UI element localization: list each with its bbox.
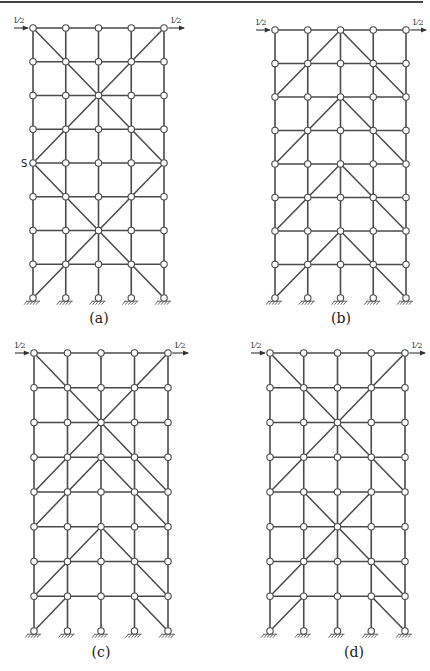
- panel-b: 1⁄21⁄2(b): [255, 18, 427, 326]
- pin-joint: [95, 227, 101, 233]
- pin-joint: [95, 25, 101, 31]
- pin-joint: [64, 419, 70, 425]
- pin-joint: [402, 524, 408, 530]
- load-arrow-right-icon: [172, 350, 189, 355]
- diagonal-brace: [34, 457, 68, 492]
- pin-support-icon: [92, 634, 108, 638]
- panel-caption: (b): [331, 310, 351, 326]
- pin-joint: [403, 194, 409, 200]
- pin-joint: [272, 161, 278, 167]
- pin-joint: [98, 524, 104, 530]
- pin-joint: [402, 593, 408, 599]
- pin-joint: [301, 524, 307, 530]
- pin-joint: [337, 161, 343, 167]
- pin-joint: [272, 228, 278, 234]
- pin-joint: [30, 92, 36, 98]
- pin-joint: [63, 227, 69, 233]
- pin-joint: [368, 385, 374, 391]
- pin-joint: [301, 593, 307, 599]
- pin-joint: [128, 25, 134, 31]
- pin-joint: [403, 228, 409, 234]
- pin-joint: [272, 295, 278, 301]
- pin-joint: [161, 25, 167, 31]
- pin-joint: [165, 350, 171, 356]
- pin-joint: [161, 194, 167, 200]
- pin-joint: [30, 59, 36, 65]
- pin-joint: [161, 160, 167, 166]
- pin-joint: [337, 295, 343, 301]
- load-label-right: 1⁄2: [411, 341, 423, 350]
- pin-joint: [98, 419, 104, 425]
- pin-joint: [334, 524, 340, 530]
- panel-caption: (d): [344, 644, 364, 660]
- pin-joint: [402, 419, 408, 425]
- load-label-left: 1⁄2: [255, 18, 267, 27]
- pin-joint: [272, 27, 278, 33]
- pin-joint: [301, 350, 307, 356]
- pin-support-icon: [362, 634, 378, 638]
- pin-joint: [368, 454, 374, 460]
- pin-joint: [161, 126, 167, 132]
- pin-joint: [131, 628, 137, 634]
- pin-joint: [368, 558, 374, 564]
- pin-joint: [161, 59, 167, 65]
- panel-caption: (c): [92, 644, 111, 660]
- load-label-right: 1⁄2: [174, 341, 186, 350]
- pin-support-icon: [261, 634, 277, 638]
- pin-joint: [370, 27, 376, 33]
- pin-joint: [95, 59, 101, 65]
- pin-joint: [30, 295, 36, 301]
- pin-joint: [337, 194, 343, 200]
- pin-joint: [370, 261, 376, 267]
- pin-joint: [63, 59, 69, 65]
- pin-joint: [165, 454, 171, 460]
- pin-joint: [301, 454, 307, 460]
- pin-joint: [128, 92, 134, 98]
- pin-joint: [131, 558, 137, 564]
- load-arrow-left-icon: [15, 350, 30, 355]
- load-arrow-left-icon: [256, 27, 271, 32]
- diagonal-brace: [270, 596, 304, 631]
- pin-joint: [334, 454, 340, 460]
- pin-joint: [31, 524, 37, 530]
- pin-joint: [305, 27, 311, 33]
- pin-joint: [368, 419, 374, 425]
- pin-joint: [402, 628, 408, 634]
- pin-joint: [131, 593, 137, 599]
- pin-support-icon: [266, 301, 282, 305]
- pin-joint: [161, 261, 167, 267]
- truss-figure: 1⁄21⁄2S(a)1⁄21⁄2(b)1⁄21⁄2(c)1⁄21⁄2(d): [0, 0, 430, 671]
- pin-joint: [165, 385, 171, 391]
- load-label-left: 1⁄2: [13, 16, 25, 25]
- pin-joint: [337, 27, 343, 33]
- node-label: S: [21, 158, 27, 169]
- panel-d: 1⁄21⁄2(d): [250, 341, 426, 660]
- pin-support-icon: [24, 301, 40, 305]
- pin-joint: [98, 628, 104, 634]
- diagonal-brace: [34, 353, 135, 457]
- pin-joint: [272, 127, 278, 133]
- pin-joint: [98, 558, 104, 564]
- pin-joint: [31, 558, 37, 564]
- diagonal-brace: [270, 492, 371, 596]
- pin-support-icon: [299, 301, 315, 305]
- pin-joint: [95, 261, 101, 267]
- pin-joint: [165, 419, 171, 425]
- load-label-right: 1⁄2: [412, 18, 424, 27]
- pin-joint: [95, 194, 101, 200]
- pin-joint: [305, 261, 311, 267]
- pin-joint: [63, 92, 69, 98]
- pin-joint: [30, 160, 36, 166]
- pin-joint: [370, 194, 376, 200]
- pin-joint: [337, 228, 343, 234]
- pin-joint: [95, 160, 101, 166]
- pin-joint: [98, 593, 104, 599]
- pin-joint: [334, 419, 340, 425]
- pin-joint: [64, 628, 70, 634]
- pin-joint: [272, 261, 278, 267]
- pin-joint: [95, 92, 101, 98]
- diagonal-brace: [304, 492, 405, 596]
- pin-joint: [98, 454, 104, 460]
- pin-joint: [161, 92, 167, 98]
- pin-joint: [337, 60, 343, 66]
